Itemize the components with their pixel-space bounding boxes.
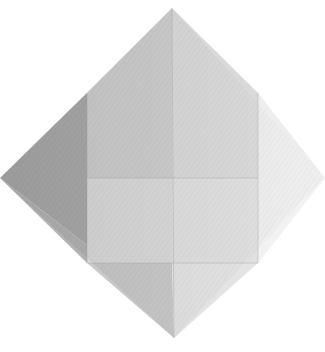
photo-stage: Photograph of a square sheet of paper fo… [0,0,325,352]
folded-paper-image [0,0,325,352]
paper-texture [0,8,325,338]
